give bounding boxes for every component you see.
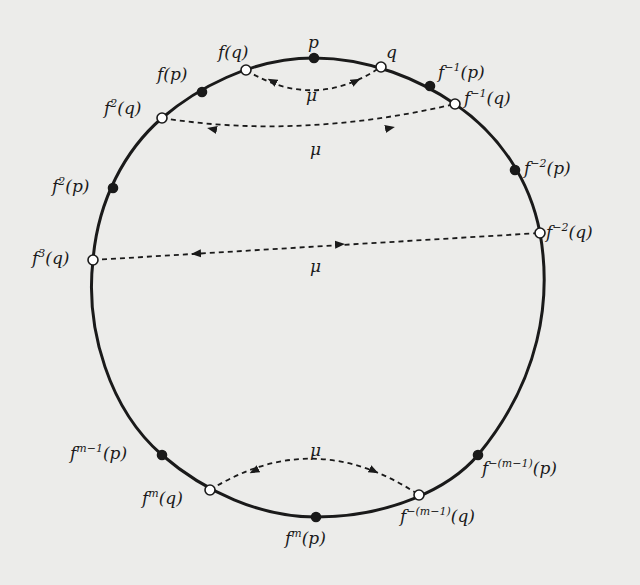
point-fmq-open <box>205 485 215 495</box>
point-f2q-open <box>157 113 167 123</box>
point-finv1p-filled <box>426 82 435 91</box>
label-fm1-p: fm−1(p) <box>70 445 127 462</box>
mu-label-m: μ <box>310 440 321 460</box>
label-fm-p: fm(p) <box>285 530 326 547</box>
mu-pairing-m <box>210 459 419 495</box>
orbit-diagram: μ μ μ μ p q f(q) f(p) f−1(p) f−1(q) f2(q… <box>0 0 640 585</box>
label-f-inv2-p: f−2(p) <box>524 160 571 177</box>
mu-label-3: μ <box>310 256 321 276</box>
point-finv1q-open <box>450 99 460 109</box>
point-fm1p-filled <box>158 451 167 460</box>
mu-label-top: μ <box>306 85 317 105</box>
label-q: q <box>386 44 397 61</box>
point-fp-filled <box>198 88 207 97</box>
label-p: p <box>308 34 319 51</box>
label-f2-p: f2(p) <box>52 178 89 195</box>
label-f-inv2-q: f−2(q) <box>546 224 593 241</box>
label-fm-q: fm(q) <box>142 490 183 507</box>
point-fmp-filled <box>312 513 321 522</box>
label-f-inv1-q: f−1(q) <box>464 90 511 107</box>
label-f-inv1-p: f−1(p) <box>438 64 485 81</box>
label-f-invm1-p: f−(m−1)(p) <box>482 460 557 477</box>
point-finvm1q-open <box>414 490 424 500</box>
mu-pairing-2 <box>162 104 455 131</box>
point-finv2q-open <box>535 228 545 238</box>
label-f3-q: f3(q) <box>32 250 69 267</box>
mu-label-2: μ <box>310 139 321 159</box>
point-f3q-open <box>88 255 98 265</box>
diagram-graphics <box>0 0 640 585</box>
point-q-open <box>376 62 386 72</box>
point-fq-open <box>241 65 251 75</box>
label-f-invm1-q: f−(m−1)(q) <box>400 508 475 525</box>
point-p-filled <box>310 54 319 63</box>
label-f-p: f(p) <box>157 66 187 83</box>
point-finv2p-filled <box>511 166 520 175</box>
point-f2p-filled <box>109 184 118 193</box>
label-f-q: f(q) <box>218 44 248 61</box>
label-f2-q: f2(q) <box>104 100 141 117</box>
